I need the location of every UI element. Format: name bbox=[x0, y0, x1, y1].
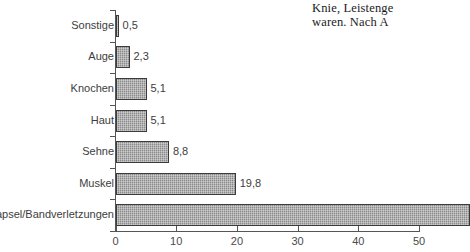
y-axis-tick bbox=[110, 199, 116, 200]
y-axis-tick bbox=[110, 10, 116, 11]
x-axis-tick-label: 0 bbox=[96, 235, 136, 247]
x-axis-tick-label: 10 bbox=[156, 235, 196, 247]
bar-value-label: 19,8 bbox=[240, 177, 261, 189]
bar bbox=[116, 204, 470, 226]
category-label: Haut bbox=[0, 114, 114, 126]
bar-value-label: 5,1 bbox=[150, 82, 165, 94]
x-axis-tick-label: 40 bbox=[338, 235, 378, 247]
x-axis-tick-label: 50 bbox=[399, 235, 439, 247]
bar bbox=[116, 46, 130, 68]
category-label: Muskel bbox=[0, 177, 114, 189]
bar bbox=[116, 173, 236, 195]
category-label: Knochen bbox=[0, 82, 114, 94]
bar-value-label: 2,3 bbox=[133, 50, 148, 62]
x-axis-tick-label: 30 bbox=[278, 235, 318, 247]
category-label: Sonstige bbox=[0, 19, 114, 31]
bar bbox=[116, 141, 169, 163]
bar bbox=[116, 110, 147, 132]
y-axis-tick bbox=[110, 168, 116, 169]
bar-value-label: 8,8 bbox=[173, 145, 188, 157]
y-axis-tick bbox=[110, 73, 116, 74]
y-axis-tick bbox=[110, 42, 116, 43]
bar-value-label: 5,1 bbox=[150, 114, 165, 126]
bar-value-label: 0,5 bbox=[123, 19, 138, 31]
category-label: Auge bbox=[0, 50, 114, 62]
x-axis-line bbox=[115, 231, 419, 232]
category-label: Sehne bbox=[0, 145, 114, 157]
y-axis-tick bbox=[110, 136, 116, 137]
y-axis-tick bbox=[110, 105, 116, 106]
category-label: Kapsel/Bandverletzungen bbox=[0, 208, 114, 220]
bar bbox=[116, 78, 147, 100]
bar bbox=[116, 15, 119, 37]
x-axis-tick-label: 20 bbox=[217, 235, 257, 247]
